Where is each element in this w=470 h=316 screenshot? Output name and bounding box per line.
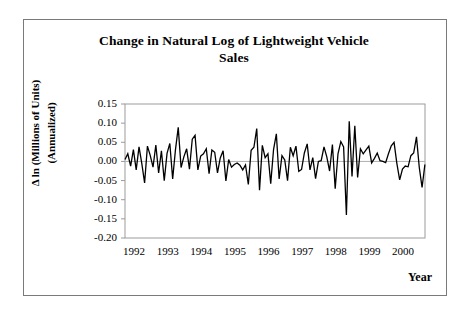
y-axis-tick-label: -0.05 [77,175,117,186]
plot-frame [125,104,425,238]
y-axis-tick-label: -0.15 [77,213,117,224]
x-axis-tick-label: 2000 [385,246,421,257]
y-axis-ticks [121,104,125,238]
x-axis-tick-label: 1993 [150,246,186,257]
x-axis-tick-label: 1997 [284,246,320,257]
x-axis-tick-label: 1996 [251,246,287,257]
y-axis-tick-label: 0.00 [77,155,117,166]
chart-figure: Change in Natural Log of Lightweight Veh… [23,19,447,296]
x-axis-tick-label: 1998 [318,246,354,257]
x-axis-label: Year [408,270,432,285]
y-axis-tick-label: -0.10 [77,194,117,205]
y-axis-tick-label: 0.10 [77,117,117,128]
y-axis-tick-label: 0.05 [77,136,117,147]
x-axis-tick-label: 1994 [183,246,219,257]
x-axis-tick-label: 1995 [217,246,253,257]
x-axis-tick-label: 1992 [116,246,152,257]
y-axis-tick-label: -0.20 [77,232,117,243]
x-axis-tick-label: 1999 [351,246,387,257]
y-axis-tick-label: 0.15 [77,98,117,109]
